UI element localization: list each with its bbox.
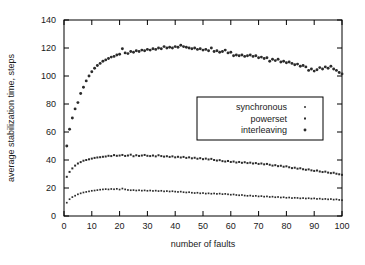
data-point <box>308 197 310 199</box>
data-point <box>329 65 332 68</box>
data-point <box>193 47 196 50</box>
data-point <box>258 163 260 165</box>
data-point <box>147 190 149 192</box>
data-point <box>155 155 157 157</box>
data-point <box>91 158 93 160</box>
data-point <box>219 159 221 161</box>
data-point <box>80 161 82 163</box>
x-tick-label: 10 <box>87 221 97 231</box>
data-point <box>249 195 251 197</box>
data-point <box>336 198 338 200</box>
data-point <box>127 189 129 191</box>
data-point <box>149 190 151 192</box>
data-point <box>238 54 241 57</box>
data-point <box>313 170 315 172</box>
x-tick-label: 20 <box>115 221 125 231</box>
data-point <box>107 57 110 60</box>
legend-label-interleaving: interleaving <box>241 125 287 135</box>
data-point <box>221 50 224 53</box>
data-point <box>144 154 146 156</box>
data-point <box>227 160 229 162</box>
data-point <box>97 189 99 191</box>
data-point <box>129 50 132 53</box>
data-point <box>308 168 310 170</box>
data-point <box>180 191 182 193</box>
data-point <box>272 165 274 167</box>
data-point <box>216 193 218 195</box>
y-tick-label: 40 <box>46 155 56 165</box>
data-point <box>141 155 143 157</box>
data-point <box>327 67 330 70</box>
data-point <box>163 191 165 193</box>
data-point <box>299 198 301 200</box>
data-point <box>135 49 138 52</box>
data-point <box>124 51 127 54</box>
legend-label-synchronous: synchronous <box>236 102 288 112</box>
data-point <box>94 190 96 192</box>
data-point <box>208 192 210 194</box>
data-point <box>99 189 101 191</box>
data-point <box>322 171 324 173</box>
data-point <box>74 107 77 110</box>
data-point <box>332 68 335 71</box>
data-point <box>286 197 288 199</box>
data-point <box>227 193 229 195</box>
data-point <box>199 157 201 159</box>
data-point <box>341 199 343 201</box>
data-point <box>90 70 93 73</box>
data-point <box>105 188 107 190</box>
data-point <box>140 49 143 52</box>
data-point <box>327 172 329 174</box>
data-point <box>69 198 71 200</box>
data-point <box>196 158 198 160</box>
data-point <box>204 48 207 51</box>
data-point <box>238 194 240 196</box>
data-point <box>266 196 268 198</box>
data-point <box>330 198 332 200</box>
data-point <box>224 161 226 163</box>
data-point <box>127 155 129 157</box>
data-point <box>144 190 146 192</box>
y-tick-label: 80 <box>46 99 56 109</box>
data-point <box>319 170 321 172</box>
data-point <box>113 188 115 190</box>
data-point <box>258 196 260 198</box>
data-point <box>215 49 218 52</box>
data-point <box>116 188 118 190</box>
legend: synchronouspowersetinterleaving <box>197 97 323 140</box>
data-point <box>296 63 299 66</box>
data-point <box>330 172 332 174</box>
data-point <box>338 173 340 175</box>
data-point <box>269 164 271 166</box>
data-point <box>235 54 238 57</box>
data-point <box>76 101 79 104</box>
data-point <box>263 57 266 60</box>
data-point <box>338 199 340 201</box>
data-point <box>80 192 82 194</box>
data-point <box>82 86 85 89</box>
data-point <box>260 56 263 59</box>
data-point <box>294 167 296 169</box>
y-tick-label: 60 <box>46 127 56 137</box>
data-point <box>269 196 271 198</box>
data-point <box>174 156 176 158</box>
data-point <box>213 50 216 53</box>
data-point <box>163 156 165 158</box>
data-point <box>85 79 88 82</box>
data-point <box>68 128 71 131</box>
data-point <box>69 171 71 173</box>
data-point <box>316 68 319 71</box>
data-point <box>174 45 177 48</box>
data-point <box>247 195 249 197</box>
data-point <box>119 155 121 157</box>
data-point <box>101 60 104 63</box>
data-point <box>291 62 294 65</box>
data-point <box>249 162 251 164</box>
data-point <box>166 190 168 192</box>
data-point <box>133 155 135 157</box>
data-point <box>88 191 90 193</box>
data-point <box>116 155 118 157</box>
data-point <box>333 199 335 201</box>
chart-container: 0102030405060708090100 02040608010012014… <box>0 0 365 265</box>
x-tick-label: 70 <box>254 221 264 231</box>
